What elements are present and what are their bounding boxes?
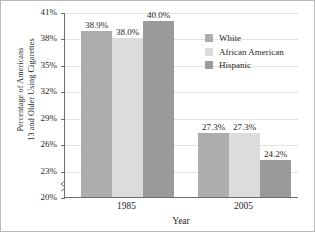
legend-item[interactable]: African American — [205, 47, 284, 57]
bar[interactable]: 24.2% — [260, 160, 291, 197]
y-axis-tick-label: 26% — [41, 139, 58, 149]
y-axis-tick — [61, 172, 65, 173]
y-axis-tick — [61, 66, 65, 67]
bar[interactable]: 27.3% — [198, 133, 229, 197]
bar-group: 38.9%38.0%40.0% — [81, 13, 174, 197]
y-axis-tick-label: 29% — [41, 113, 58, 123]
x-axis-tick-label: 1985 — [87, 201, 167, 211]
bar-value-label: 38.9% — [85, 20, 108, 30]
chart-figure: Percentage of Americans 13 and Older Usi… — [0, 0, 315, 232]
legend-swatch — [205, 34, 213, 42]
legend-item-label: White — [219, 33, 241, 43]
y-axis-tick — [61, 119, 65, 120]
legend-item[interactable]: White — [205, 33, 284, 43]
y-axis-tick — [61, 39, 65, 40]
y-axis-tick-labels: 20%23%26%29%32%35%38%41% — [1, 13, 61, 198]
legend-swatch — [205, 48, 213, 56]
bar[interactable]: 27.3% — [229, 133, 260, 197]
bar-value-label: 27.3% — [202, 122, 225, 132]
y-axis-tick-label: 32% — [41, 86, 58, 96]
y-axis-tick — [61, 198, 65, 199]
x-axis-title: Year — [64, 216, 298, 226]
x-axis-tick-label: 2005 — [204, 201, 284, 211]
y-axis-tick — [61, 145, 65, 146]
legend-item-label: African American — [219, 47, 284, 57]
y-axis-tick-label: 38% — [41, 33, 58, 43]
bar-value-label: 27.3% — [233, 122, 256, 132]
y-axis-tick-label: 41% — [41, 7, 58, 17]
bar[interactable]: 38.9% — [81, 31, 112, 198]
bar[interactable]: 38.0% — [112, 38, 143, 197]
legend-item-label: Hispanic — [219, 60, 251, 70]
bar-value-label: 40.0% — [147, 10, 170, 20]
y-axis-tick-label: 20% — [41, 192, 58, 202]
bar-value-label: 38.0% — [116, 27, 139, 37]
y-axis-tick — [61, 92, 65, 93]
legend-item[interactable]: Hispanic — [205, 60, 284, 70]
legend-swatch — [205, 61, 213, 69]
bar-value-label: 24.2% — [264, 149, 287, 159]
bar[interactable]: 40.0% — [143, 21, 174, 197]
y-axis-tick — [61, 13, 65, 14]
y-axis-tick-label: 23% — [41, 166, 58, 176]
y-axis-tick-label: 35% — [41, 60, 58, 70]
chart-legend: WhiteAfrican AmericanHispanic — [205, 33, 284, 74]
